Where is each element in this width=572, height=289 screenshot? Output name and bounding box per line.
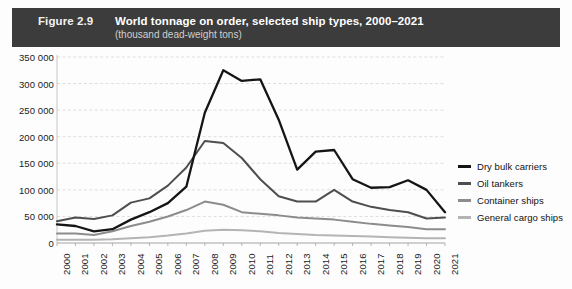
figure-subtitle: (thousand dead-weight tons) <box>115 29 242 40</box>
legend-item[interactable]: Dry bulk carriers <box>458 158 570 175</box>
legend-swatch-icon <box>458 182 471 185</box>
legend-label: Dry bulk carriers <box>477 161 547 172</box>
legend-swatch-icon <box>458 216 471 219</box>
legend-swatch-icon <box>458 165 471 168</box>
series-line <box>57 70 445 231</box>
figure-number: Figure 2.9 <box>38 15 93 27</box>
figure-header-bar: Figure 2.9 World tonnage on order, selec… <box>12 8 560 47</box>
legend-label: Oil tankers <box>477 178 523 189</box>
legend-label: Container ships <box>477 195 544 206</box>
figure-title: World tonnage on order, selected ship ty… <box>115 15 424 27</box>
legend-item[interactable]: General cargo ships <box>458 209 570 226</box>
series-line <box>57 141 445 221</box>
legend-swatch-icon <box>458 199 471 202</box>
figure-container: Figure 2.9 World tonnage on order, selec… <box>0 0 572 289</box>
legend-label: General cargo ships <box>477 212 563 223</box>
legend-item[interactable]: Container ships <box>458 192 570 209</box>
legend-item[interactable]: Oil tankers <box>458 175 570 192</box>
chart-legend: Dry bulk carriersOil tankersContainer sh… <box>458 158 570 226</box>
